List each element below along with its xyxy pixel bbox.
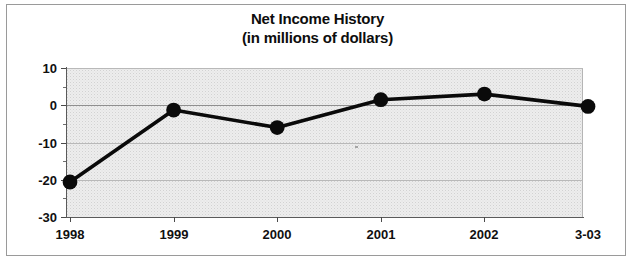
chart-figure: Net Income History (in millions of dolla… <box>0 0 635 269</box>
data-point-1998 <box>63 175 78 190</box>
data-point-2001 <box>373 92 388 107</box>
data-point-2002 <box>477 87 492 102</box>
data-point-3-03 <box>581 99 596 114</box>
data-point-1999 <box>166 103 181 118</box>
data-series-svg <box>0 0 635 269</box>
data-point-2000 <box>270 120 285 135</box>
plot-wrapper: 100-10-20-30 199819992000200120023-03 <box>0 0 635 269</box>
net-income-line <box>70 94 588 182</box>
scan-artifact-speck <box>355 146 358 148</box>
net-income-markers <box>63 87 596 190</box>
